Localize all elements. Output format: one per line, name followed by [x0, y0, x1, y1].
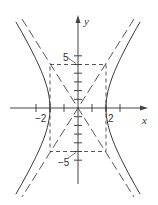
- hyperbola-diagram: y x −2 2 5 −5: [0, 0, 158, 205]
- y-axis-arrow-icon: [76, 15, 81, 23]
- graph-canvas: y x −2 2 5 −5: [0, 0, 158, 205]
- x-axis-arrow-icon: [140, 106, 148, 111]
- leader-line-5: [68, 58, 76, 64]
- y-axis-label: y: [83, 15, 89, 27]
- y-tick-label-5: 5: [63, 52, 69, 63]
- x-tick-label-2: 2: [108, 113, 114, 124]
- y-tick-label-neg5: −5: [58, 157, 70, 168]
- x-tick-label-neg2: −2: [35, 113, 47, 124]
- x-axis-label: x: [141, 114, 147, 126]
